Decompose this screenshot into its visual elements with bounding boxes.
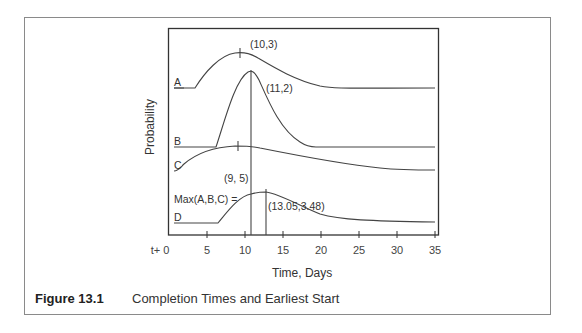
curve-b-label: B <box>174 135 181 147</box>
x-tick-label: 10 <box>239 244 251 256</box>
curve-d-mode-label: (13.05,3.48) <box>268 200 325 212</box>
curve-b-mode-label: (11,2) <box>266 82 293 94</box>
x-axis-label: Time, Days <box>272 266 332 280</box>
figure-caption: Completion Times and Earliest Start <box>132 291 339 306</box>
chart-plot <box>0 0 582 333</box>
curve-c-mode-label: (9, 5) <box>224 172 249 184</box>
curve-c-label: C <box>174 159 182 171</box>
curve-b <box>174 71 435 147</box>
figure-number: Figure 13.1 <box>35 291 104 306</box>
x-tick-label: 15 <box>277 244 289 256</box>
curve-c <box>174 146 435 171</box>
y-axis-label: Probability <box>143 87 157 167</box>
x-tick-label: 35 <box>429 244 441 256</box>
x-tick-label: t+ 0 <box>151 244 170 256</box>
curve-d-label: D <box>174 211 182 223</box>
curve-a-mode-label: (10,3) <box>250 38 277 50</box>
x-tick-label: 30 <box>391 244 403 256</box>
curve-d-prefix-label: Max(A,B,C) = <box>174 193 237 205</box>
curve-a-label: A <box>174 76 181 88</box>
x-tick-label: 20 <box>315 244 327 256</box>
x-tick-label: 25 <box>353 244 365 256</box>
x-tick-label: 5 <box>204 244 210 256</box>
curve-a <box>174 53 435 89</box>
